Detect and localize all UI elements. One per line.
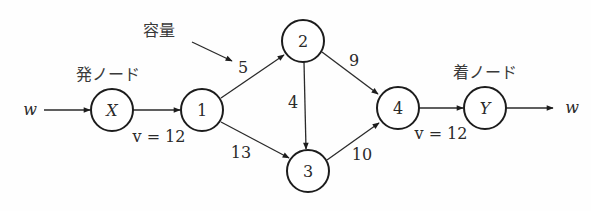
edge-1-to-2 bbox=[221, 55, 284, 98]
sink-node-label: 着ノード bbox=[453, 63, 517, 82]
capacity-pointer-arrow bbox=[192, 42, 232, 61]
node-X: X bbox=[91, 89, 133, 131]
edge-2-to-3 bbox=[304, 62, 306, 149]
sink-flow-value: v = 12 bbox=[414, 124, 468, 143]
edge-label-2-4: 9 bbox=[349, 51, 359, 70]
node-1: 1 bbox=[181, 89, 223, 131]
source-flow-value: v = 12 bbox=[132, 127, 186, 146]
edge-label-1-2: 5 bbox=[238, 58, 248, 77]
node-2: 2 bbox=[282, 20, 324, 62]
edge-label-2-3: 4 bbox=[288, 93, 298, 112]
node-label: 2 bbox=[298, 32, 308, 51]
node-label: 4 bbox=[393, 99, 403, 118]
node-3: 3 bbox=[287, 150, 329, 192]
node-label: Y bbox=[480, 99, 492, 118]
output-flow-label: w bbox=[565, 98, 579, 117]
node-label: X bbox=[104, 101, 118, 120]
node-label: 3 bbox=[303, 162, 313, 181]
capacity-label: 容量 bbox=[143, 21, 175, 40]
node-label: 1 bbox=[197, 101, 207, 120]
source-node-label: 発ノード bbox=[76, 65, 140, 84]
input-flow-label: w bbox=[23, 100, 37, 119]
node-4: 4 bbox=[377, 87, 419, 129]
node-Y: Y bbox=[464, 87, 506, 129]
edge-label-3-4: 10 bbox=[352, 145, 372, 164]
flow-network-diagram: X 1 2 3 4 Y 5 13 4 9 10 w w v = 12 bbox=[0, 0, 591, 211]
edge-label-1-3: 13 bbox=[231, 143, 251, 162]
